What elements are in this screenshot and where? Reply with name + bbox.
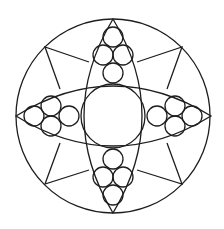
small-circle-top: [103, 27, 123, 47]
kite-top-left: [45, 47, 89, 89]
small-circle-left: [41, 96, 61, 116]
vertical-lens: [84, 19, 142, 213]
small-circle-bottom: [103, 149, 123, 169]
corner-kites: [45, 47, 182, 184]
kite-bottom-right: [137, 143, 182, 184]
mandala-diagram: [0, 0, 224, 229]
small-circle-right: [147, 106, 167, 126]
small-circle-right: [182, 106, 202, 126]
small-circle-top: [103, 63, 123, 83]
kite-bottom-left: [45, 143, 89, 184]
small-circle-bottom: [103, 185, 123, 205]
kite-top-right: [137, 47, 182, 89]
diagram-svg: [0, 0, 224, 229]
small-circle-left: [59, 106, 79, 126]
small-circle-clusters: [24, 27, 202, 205]
small-circle-left: [41, 116, 61, 136]
center-circle: [81, 84, 145, 148]
